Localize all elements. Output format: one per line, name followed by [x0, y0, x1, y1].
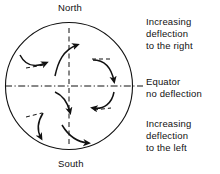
deflection-arrow-nh-west [20, 55, 46, 65]
deflection-arrow-nh-east [93, 60, 114, 81]
deflection-arrow-nh-south [55, 45, 77, 76]
reference-dash-sh-west [26, 113, 42, 117]
annotation-increasing-deflection-right: Increasing deflection to the right [146, 16, 193, 53]
annotation-equator-no-deflection: Equator no deflection [146, 76, 202, 100]
diagram-page: North South Increasing deflection to the… [0, 0, 220, 174]
deflection-arrow-sh-west [38, 113, 43, 138]
label-south: South [58, 158, 84, 170]
deflection-arrow-sh-east [93, 92, 114, 108]
deflection-arrow-sh-north [55, 92, 70, 112]
deflection-arrow-sh-center-lower [62, 125, 88, 143]
label-north: North [58, 2, 82, 14]
annotation-increasing-deflection-left: Increasing deflection to the left [146, 118, 191, 155]
